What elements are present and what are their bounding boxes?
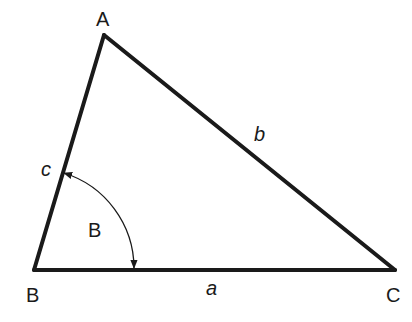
vertex-b-label: B	[26, 284, 39, 306]
side-c-label: c	[41, 158, 51, 180]
vertex-a-label: A	[96, 8, 110, 30]
side-b-line	[104, 35, 395, 270]
vertex-c-label: C	[386, 284, 400, 306]
triangle-diagram: A B C a b c B	[0, 0, 412, 322]
angle-b-label: B	[88, 219, 101, 241]
side-a-label: a	[206, 277, 217, 299]
side-b-label: b	[254, 123, 265, 145]
